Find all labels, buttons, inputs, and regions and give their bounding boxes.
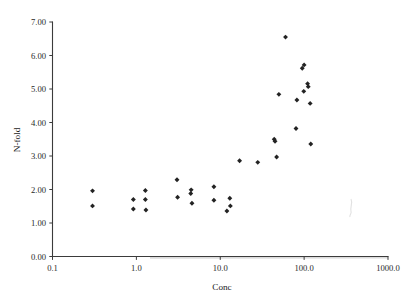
data-point bbox=[301, 89, 306, 94]
data-point bbox=[190, 201, 195, 206]
axes bbox=[53, 22, 389, 258]
plot-area: 0.001.002.003.004.005.006.007.00 0.11.01… bbox=[0, 0, 413, 303]
data-point bbox=[175, 195, 180, 200]
y-tick-label: 1.00 bbox=[31, 218, 46, 228]
data-point bbox=[255, 160, 260, 165]
data-point bbox=[308, 141, 313, 146]
data-point bbox=[143, 197, 148, 202]
y-tick-label: 0.00 bbox=[31, 252, 46, 262]
data-point bbox=[175, 177, 180, 182]
data-point bbox=[143, 207, 148, 212]
data-point bbox=[211, 198, 216, 203]
data-point bbox=[90, 188, 95, 193]
data-point bbox=[237, 158, 242, 163]
data-point bbox=[188, 191, 193, 196]
x-tick-label: 10.0 bbox=[213, 263, 228, 273]
x-tick-label: 1000.0 bbox=[376, 263, 400, 273]
data-point bbox=[274, 155, 279, 160]
y-tick-label: 7.00 bbox=[31, 17, 46, 27]
y-tick-label: 6.00 bbox=[31, 51, 46, 61]
x-tick-label: 0.1 bbox=[47, 263, 58, 273]
y-tick-label: 3.00 bbox=[31, 151, 46, 161]
data-point bbox=[131, 206, 136, 211]
y-tick-label: 2.00 bbox=[31, 185, 46, 195]
data-point bbox=[131, 197, 136, 202]
data-point-group bbox=[90, 35, 313, 214]
x-tick-label: 100.0 bbox=[294, 263, 313, 273]
scan-artifact bbox=[350, 199, 352, 217]
x-axis-title: Conc bbox=[212, 282, 231, 292]
data-point bbox=[294, 126, 299, 131]
y-tick-label: 5.00 bbox=[31, 84, 46, 94]
data-point bbox=[211, 184, 216, 189]
data-point bbox=[276, 92, 281, 97]
y-axis-title: N-fold bbox=[12, 127, 22, 152]
x-tick-label: 1.0 bbox=[131, 263, 142, 273]
data-point bbox=[227, 196, 232, 201]
data-point bbox=[283, 35, 288, 40]
data-point bbox=[308, 101, 313, 106]
y-tick-label: 4.00 bbox=[31, 118, 46, 128]
x-axis-ticks: 0.11.010.0100.01000.0 bbox=[47, 257, 400, 274]
data-point bbox=[224, 208, 229, 213]
scatter-chart-figure: 0.001.002.003.004.005.006.007.00 0.11.01… bbox=[0, 0, 413, 303]
data-point bbox=[294, 98, 299, 103]
y-axis-ticks: 0.001.002.003.004.005.006.007.00 bbox=[31, 17, 53, 262]
data-point bbox=[143, 188, 148, 193]
data-point bbox=[228, 203, 233, 208]
data-point bbox=[90, 203, 95, 208]
